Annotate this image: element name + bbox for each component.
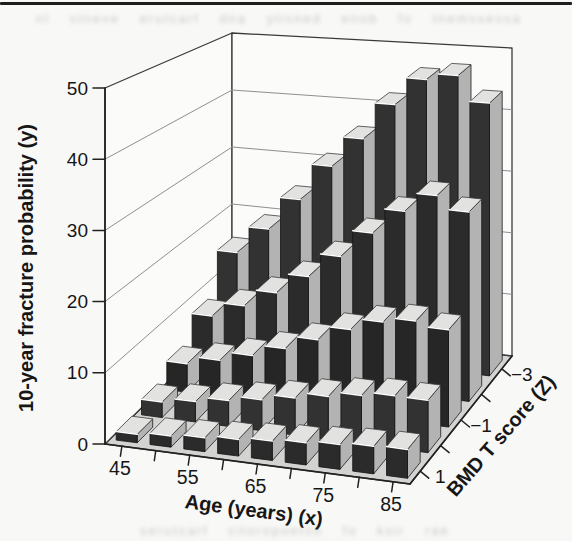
- z-tick: [420, 471, 429, 478]
- y-tick-label: 50: [67, 78, 88, 99]
- x-tick: [120, 446, 122, 456]
- z-tick: [481, 394, 490, 401]
- y-tick-label: 30: [67, 220, 88, 241]
- bar-side-face: [469, 199, 482, 402]
- y-axis-title: 10-year fracture probability (y): [15, 124, 37, 412]
- page-top-rule: [0, 2, 572, 5]
- y-tick-label: 40: [67, 149, 88, 170]
- x-tick: [188, 455, 190, 465]
- bar-side-face: [490, 91, 503, 376]
- x-tick: [256, 464, 258, 474]
- bar-front-face: [251, 438, 272, 460]
- bar-front-face: [319, 442, 340, 470]
- bar-front-face: [387, 447, 408, 479]
- x-tick: [154, 451, 156, 461]
- x-tick-label: 65: [245, 475, 267, 497]
- z-tick: [441, 446, 450, 453]
- x-tick-label: 75: [312, 484, 334, 506]
- print-bleedthrough-bottom: serutcarf citoropoetso fo ksir raey net: [140, 523, 450, 538]
- bar-front-face: [285, 440, 306, 465]
- bar-front-face: [175, 399, 196, 422]
- bar-side-face: [449, 315, 462, 427]
- x-tick-label: 55: [177, 466, 199, 488]
- x-tick: [358, 477, 360, 487]
- x-tick: [392, 482, 394, 492]
- x-tick: [222, 460, 224, 470]
- x-tick-label: 85: [380, 493, 402, 515]
- x-tick: [324, 473, 326, 483]
- x-tick: [290, 468, 292, 478]
- y-tick-label: 0: [77, 434, 88, 455]
- z-tick-label: −3: [511, 364, 533, 385]
- y-tick-label: 10: [67, 362, 88, 383]
- bar-front-face: [353, 444, 374, 474]
- y-tick-label: 20: [67, 291, 88, 312]
- z-tick: [502, 369, 511, 376]
- x-tick-label: 45: [109, 457, 131, 479]
- print-bleedthrough-top: nl stneve erutcarf dna ytisned enob fo t…: [36, 11, 541, 26]
- z-tick: [461, 420, 470, 427]
